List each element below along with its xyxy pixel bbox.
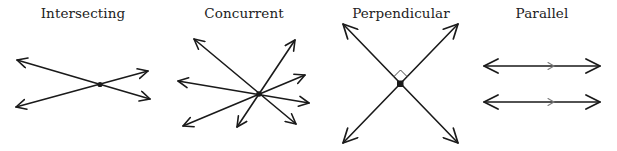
line-b — [16, 71, 148, 107]
right-angle-mark — [394, 70, 408, 77]
concurrent-lines-figure — [178, 39, 309, 127]
intersection-point — [97, 82, 102, 87]
intersecting-lines-figure — [16, 60, 150, 107]
line-1 — [194, 39, 296, 124]
diagram-canvas — [0, 0, 617, 151]
line-2 — [178, 81, 309, 103]
line-3 — [183, 75, 305, 126]
concurrency-point — [256, 91, 262, 97]
perpendicular-lines-figure — [343, 24, 458, 143]
intersection-point — [397, 81, 404, 88]
parallel-lines-figure — [484, 63, 600, 106]
line-relationships-diagram: Intersecting Concurrent Perpendicular Pa… — [0, 0, 617, 151]
line-a — [17, 60, 150, 99]
